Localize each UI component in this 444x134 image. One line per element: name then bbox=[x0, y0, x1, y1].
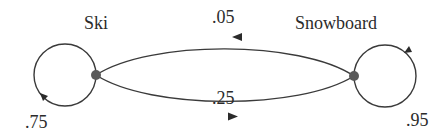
edge-snowboard-to-ski bbox=[96, 33, 354, 76]
node-label-ski: Ski bbox=[84, 14, 108, 32]
node-label-snowboard: Snowboard bbox=[295, 14, 377, 32]
edge-label-ski-self: .75 bbox=[25, 113, 48, 131]
edge-label-snowboard-self: .95 bbox=[406, 111, 429, 129]
edge-label-snowboard-to-ski: .05 bbox=[212, 8, 235, 26]
edge-label-ski-to-snowboard: .25 bbox=[212, 89, 235, 107]
arrow-left-icon bbox=[232, 33, 242, 41]
markov-diagram: Ski Snowboard .05 .25 .75 .95 bbox=[0, 0, 444, 134]
arrow-up-icon bbox=[404, 46, 412, 53]
arrow-right-icon bbox=[228, 113, 238, 121]
node-snowboard bbox=[349, 71, 359, 81]
edge-ski-self-loop bbox=[34, 44, 96, 106]
edge-snowboard-self-loop bbox=[354, 45, 416, 107]
node-ski bbox=[91, 70, 101, 80]
